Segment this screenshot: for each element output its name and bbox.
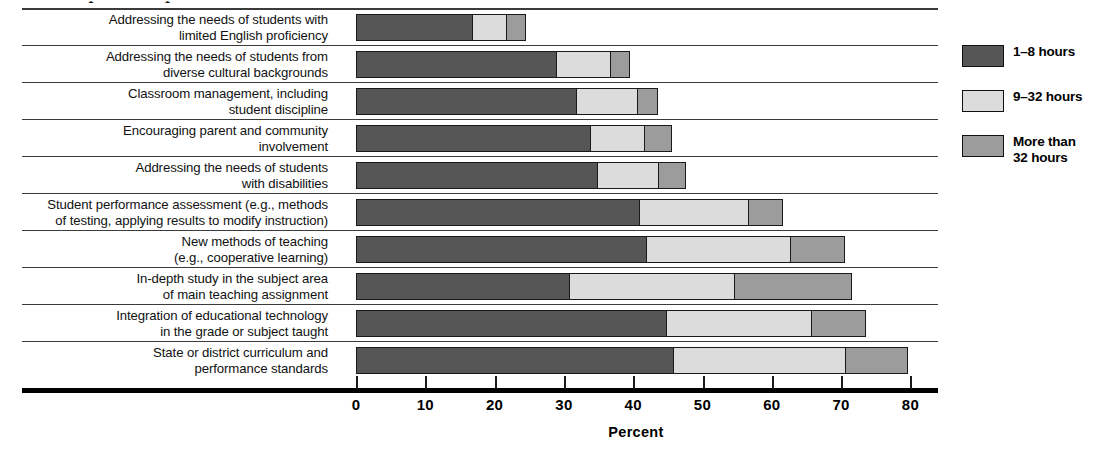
bar-segment-3	[506, 14, 527, 41]
bar-row: New methods of teaching(e.g., cooperativ…	[22, 230, 938, 267]
bar-track	[356, 14, 926, 41]
bar-segment-3	[790, 236, 845, 263]
bar-segment-3	[610, 51, 631, 78]
bar-row: State or district curriculum andperforma…	[22, 341, 938, 378]
x-tick	[772, 376, 774, 389]
bar-row-label-line1: In-depth study in the subject area	[136, 271, 328, 286]
legend-swatch	[962, 45, 1004, 67]
bar-row: Integration of educational technologyin …	[22, 304, 938, 341]
bar-row-label-line1: Integration of educational technology	[116, 308, 328, 323]
bar-row-label-line2: of main teaching assignment	[163, 287, 328, 302]
x-tick-label: 50	[694, 396, 711, 413]
bar-row-label: Addressing the needs of studentswith dis…	[22, 157, 334, 194]
bar-row-label-line1: Encouraging parent and community	[123, 123, 328, 138]
bar-track	[356, 310, 926, 337]
bar-segment-2	[666, 310, 812, 337]
bar-track	[356, 199, 926, 226]
x-tick	[633, 376, 635, 389]
stacked-bar	[356, 14, 526, 41]
bar-row: Addressing the needs of students fromdiv…	[22, 45, 938, 82]
bar-segment-2	[569, 273, 735, 300]
bar-segment-2	[673, 347, 846, 374]
x-tick-label: 80	[902, 396, 919, 413]
bar-rows: Addressing the needs of students withlim…	[22, 8, 938, 378]
bar-segment-3	[734, 273, 852, 300]
x-tick	[495, 376, 497, 389]
bar-segment-1	[356, 273, 571, 300]
bar-row-label: Student performance assessment (e.g., me…	[22, 194, 334, 231]
x-axis-title: Percent	[356, 424, 916, 440]
bar-row-label-line2: involvement	[259, 139, 328, 154]
bar-row-label: New methods of teaching(e.g., cooperativ…	[22, 231, 334, 268]
legend-swatch	[962, 135, 1004, 157]
bar-segment-3	[644, 125, 672, 152]
bar-segment-3	[637, 88, 658, 115]
x-tick-label: 40	[625, 396, 642, 413]
bar-row-label-line2: diverse cultural backgrounds	[163, 65, 328, 80]
bar-segment-3	[748, 199, 783, 226]
bar-row: Classroom management, includingstudent d…	[22, 82, 938, 119]
stacked-bar	[356, 88, 658, 115]
bar-row-label-line1: Addressing the needs of students from	[106, 49, 328, 64]
bar-row-label-line2: student discipline	[229, 102, 328, 117]
x-tick-label: 70	[832, 396, 849, 413]
x-tick-label: 20	[486, 396, 503, 413]
bar-row-label-line1: Student performance assessment (e.g., me…	[47, 197, 328, 212]
bar-row: Addressing the needs of studentswith dis…	[22, 156, 938, 193]
bar-segment-1	[356, 14, 474, 41]
legend-item-1: 1–8 hours	[962, 44, 1104, 67]
bar-row-label-line2: (e.g., cooperative learning)	[174, 250, 328, 265]
x-tick-label: 30	[555, 396, 572, 413]
stacked-bar-chart: • • Addressing the needs of students wit…	[0, 0, 1104, 468]
bar-row-label: Encouraging parent and communityinvolvem…	[22, 120, 334, 157]
bar-segment-2	[590, 125, 645, 152]
bar-segment-1	[356, 199, 640, 226]
bar-segment-1	[356, 310, 668, 337]
legend: 1–8 hours9–32 hoursMore than 32 hours	[962, 44, 1104, 188]
bar-row-label-line1: Addressing the needs of students	[135, 160, 328, 175]
bar-segment-1	[356, 125, 592, 152]
stacked-bar	[356, 273, 852, 300]
bar-segment-1	[356, 162, 599, 189]
clipped-title-remnant: • •	[88, 0, 171, 3]
legend-label: 1–8 hours	[1013, 44, 1075, 60]
bar-segment-2	[646, 236, 792, 263]
stacked-bar	[356, 347, 908, 374]
bar-row: Student performance assessment (e.g., me…	[22, 193, 938, 230]
x-tick	[910, 376, 912, 389]
x-tick	[425, 376, 427, 389]
bar-row: Addressing the needs of students withlim…	[22, 8, 938, 45]
bar-row-label: In-depth study in the subject areaof mai…	[22, 268, 334, 305]
bar-row-label-line1: Classroom management, including	[128, 86, 328, 101]
bar-segment-2	[472, 14, 507, 41]
bar-segment-1	[356, 51, 557, 78]
stacked-bar	[356, 199, 783, 226]
stacked-bar	[356, 162, 686, 189]
bar-track	[356, 51, 926, 78]
bar-segment-1	[356, 88, 578, 115]
bar-row: Encouraging parent and communityinvolvem…	[22, 119, 938, 156]
bar-row-label: State or district curriculum andperforma…	[22, 342, 334, 379]
bar-segment-1	[356, 347, 675, 374]
x-tick-label: 0	[352, 396, 361, 413]
bar-row-label: Addressing the needs of students withlim…	[22, 9, 334, 46]
bar-segment-1	[356, 236, 647, 263]
stacked-bar	[356, 51, 630, 78]
bar-segment-2	[576, 88, 638, 115]
legend-swatch	[962, 90, 1004, 112]
bar-row-label-line2: in the grade or subject taught	[160, 324, 328, 339]
x-tick-label: 60	[763, 396, 780, 413]
bar-segment-3	[658, 162, 686, 189]
x-tick	[356, 376, 358, 389]
stacked-bar	[356, 125, 672, 152]
bar-segment-3	[811, 310, 866, 337]
x-axis-ticks	[356, 376, 916, 389]
bar-row-label-line2: of testing, applying results to modify i…	[55, 213, 328, 228]
bar-track	[356, 125, 926, 152]
bar-track	[356, 347, 926, 374]
legend-label: 9–32 hours	[1013, 89, 1082, 105]
legend-label: More than 32 hours	[1013, 134, 1076, 166]
bar-row-label-line1: State or district curriculum and	[153, 345, 328, 360]
bar-row-label-line1: New methods of teaching	[181, 234, 328, 249]
bar-segment-2	[639, 199, 750, 226]
